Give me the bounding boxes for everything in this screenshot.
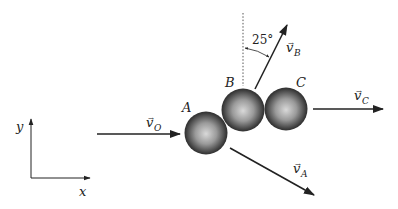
ball-c-label: C bbox=[296, 75, 306, 90]
angle-label: 25° bbox=[252, 33, 273, 47]
ball-a-label: A bbox=[181, 100, 191, 115]
ball-c: C bbox=[265, 75, 308, 131]
x-axis-label: x bbox=[79, 184, 87, 199]
v-o-subscript: O bbox=[154, 123, 162, 133]
v-c-subscript: C bbox=[362, 96, 369, 106]
v-a-subscript: A bbox=[300, 169, 308, 179]
angle-arc bbox=[245, 48, 269, 57]
ball-c-sphere bbox=[265, 88, 308, 131]
y-axis-label: y bbox=[15, 119, 24, 134]
v-a-symbol: v bbox=[293, 161, 301, 176]
ball-b-sphere bbox=[222, 89, 265, 132]
coordinate-axes: y x bbox=[15, 119, 90, 199]
v-o-symbol: v bbox=[146, 115, 154, 130]
collision-diagram: y x → v O 25° → v B A B C → v C bbox=[0, 0, 398, 209]
v-b-symbol: v bbox=[286, 40, 294, 55]
velocity-v-a: → v A bbox=[230, 148, 314, 195]
ball-a: A bbox=[181, 100, 228, 155]
velocity-v-c: → v C bbox=[313, 88, 383, 109]
ball-a-sphere bbox=[185, 112, 228, 155]
v-b-subscript: B bbox=[293, 48, 301, 58]
velocity-v-o: → v O bbox=[97, 115, 180, 134]
ball-b-label: B bbox=[224, 75, 235, 90]
v-c-symbol: v bbox=[354, 88, 362, 103]
angle-indicator: 25° bbox=[245, 33, 273, 57]
